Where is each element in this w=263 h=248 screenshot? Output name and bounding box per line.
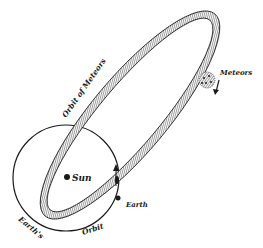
orbit-label: Orbit	[81, 221, 105, 237]
meteors-label: Meteors	[219, 68, 252, 77]
earth-label: Earth	[125, 200, 148, 209]
meteor-swarm: Meteors	[199, 68, 252, 95]
meteor-orbit-diagram: Sun Earth Meteors Orbit of Meteors Earth…	[0, 0, 263, 248]
earth-dot	[116, 196, 121, 201]
sun-label: Sun	[72, 173, 92, 183]
sun: Sun	[64, 173, 92, 183]
sun-dot	[64, 174, 70, 180]
orbit-of-meteors-label: Orbit of Meteors	[60, 56, 108, 119]
